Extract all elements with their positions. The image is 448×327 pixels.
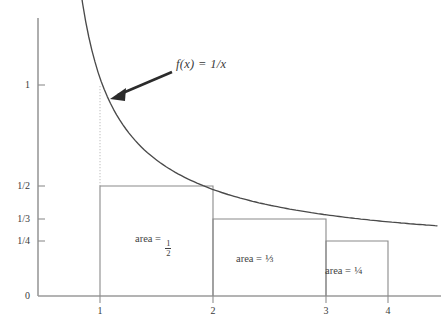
y-tick-label-0: 0 bbox=[4, 291, 30, 301]
y-tick-label-1: 1 bbox=[4, 80, 30, 90]
area-label-one-half: area = 1 2 bbox=[135, 234, 171, 258]
x-tick-label-2: 2 bbox=[203, 306, 223, 316]
area-label-one-half-fraction: 1 2 bbox=[165, 239, 171, 258]
area-label-one-fourth-fraction: ¼ bbox=[354, 264, 362, 276]
area-label-one-third-equals: = bbox=[256, 253, 262, 264]
area-label-one-half-prefix: area bbox=[135, 233, 152, 244]
y-tick-label-one-fourth: 1/4 bbox=[4, 236, 30, 246]
curve-one-over-x bbox=[76, 0, 437, 226]
area-label-one-third-prefix: area bbox=[236, 253, 253, 264]
fraction-numerator: 1 bbox=[165, 239, 171, 249]
fraction-denominator: 2 bbox=[165, 249, 171, 258]
x-tick-label-1: 1 bbox=[90, 306, 110, 316]
x-tick-label-4: 4 bbox=[378, 306, 398, 316]
area-label-one-third: area = ⅓ bbox=[236, 253, 273, 265]
area-label-one-fourth-equals: = bbox=[345, 265, 351, 276]
x-tick-label-3: 3 bbox=[316, 306, 336, 316]
area-label-one-half-equals: = bbox=[155, 233, 161, 244]
area-label-one-third-fraction: ⅓ bbox=[265, 252, 273, 264]
y-tick-label-one-half: 1/2 bbox=[4, 181, 30, 191]
area-label-one-fourth-prefix: area bbox=[325, 265, 342, 276]
riemann-sum-figure: 1 1/2 1/3 1/4 0 1 2 3 4 f(x) = 1/x area … bbox=[0, 0, 448, 327]
function-label: f(x) = 1/x bbox=[176, 58, 226, 71]
plot-canvas bbox=[0, 0, 448, 327]
y-tick-label-one-third: 1/3 bbox=[4, 214, 30, 224]
area-label-one-fourth: area = ¼ bbox=[325, 265, 362, 277]
